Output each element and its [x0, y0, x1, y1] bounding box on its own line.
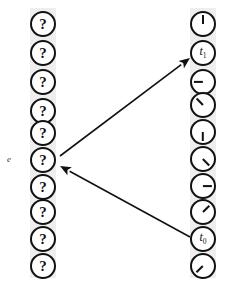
event-node-label: ?: [39, 205, 47, 220]
arrow-t0-to-event-head: [60, 166, 72, 175]
event-node-label: ?: [39, 259, 47, 274]
clock-hand-icon: [202, 158, 210, 166]
arrow-t0-to-event-shaft: [70, 171, 190, 237]
clock-node[interactable]: [190, 92, 216, 118]
event-node[interactable]: ?: [30, 11, 56, 37]
clock-hand-icon: [202, 15, 204, 24]
event-node[interactable]: ?: [30, 120, 56, 146]
timestamp-subscript: 0: [203, 237, 207, 246]
diagram-canvas: ?????????? t1t0 e: [0, 0, 244, 289]
timestamp-node-label: t1: [199, 45, 206, 60]
clock-node[interactable]: [190, 253, 216, 279]
event-side-label: e: [7, 154, 11, 164]
clock-hand-icon: [196, 98, 204, 106]
timestamp-node[interactable]: t1: [190, 40, 216, 66]
event-node-label: ?: [39, 232, 47, 247]
event-node-label: ?: [39, 104, 47, 119]
timestamp-node[interactable]: t0: [190, 226, 216, 252]
event-node-label: ?: [39, 126, 47, 141]
event-node-label: ?: [39, 180, 47, 195]
event-node[interactable]: ?: [30, 199, 56, 225]
clock-node[interactable]: [190, 11, 216, 37]
clock-hand-icon: [196, 265, 204, 273]
event-node-label: ?: [39, 46, 47, 61]
event-node[interactable]: ?: [30, 147, 56, 173]
event-node-label: ?: [39, 153, 47, 168]
arrow-event-to-t1-shaft: [60, 65, 181, 156]
clock-node[interactable]: [190, 199, 216, 225]
clock-hand-icon: [203, 185, 212, 187]
event-node[interactable]: ?: [30, 253, 56, 279]
event-node[interactable]: ?: [30, 174, 56, 200]
event-node[interactable]: ?: [30, 226, 56, 252]
clock-node[interactable]: [190, 146, 216, 172]
clock-hand-icon: [194, 81, 203, 83]
clock-node[interactable]: [190, 173, 216, 199]
clock-hand-icon: [202, 132, 204, 141]
event-node[interactable]: ?: [30, 40, 56, 66]
clock-hand-icon: [202, 205, 210, 213]
timestamp-subscript: 1: [203, 51, 207, 60]
event-node-label: ?: [39, 17, 47, 32]
event-node[interactable]: ?: [30, 69, 56, 95]
clock-node[interactable]: [190, 119, 216, 145]
timestamp-node-label: t0: [199, 231, 206, 246]
arrow-event-to-t1-head: [178, 58, 190, 68]
event-node-label: ?: [39, 75, 47, 90]
